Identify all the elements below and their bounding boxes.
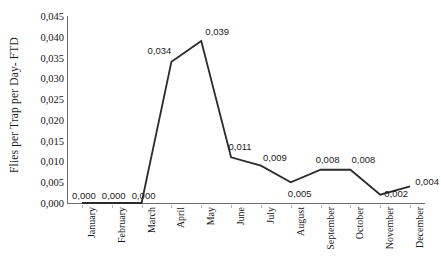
x-axis-tick-label: September [325, 207, 336, 250]
y-axis-tick-label: 0,005 [26, 177, 64, 188]
line-chart: Flies per Trap per Day- FTD 0,0000,0050,… [0, 0, 441, 264]
data-point-label: 0,000 [102, 190, 126, 201]
y-axis-tick-label: 0,010 [26, 156, 64, 167]
x-axis-tick-label: March [146, 207, 157, 233]
x-axis-tick-labels: JanuaryFebruaryMarchAprilMayJuneJulyAugu… [67, 205, 425, 264]
data-point-label: 0,000 [132, 190, 156, 201]
x-axis-tick-label: April [175, 207, 186, 228]
data-point-label: 0,004 [415, 176, 439, 187]
x-axis-tick-label: December [414, 207, 425, 248]
x-axis-tick-mark [321, 205, 322, 208]
y-axis-tick-label: 0,035 [26, 52, 64, 63]
x-axis-tick-mark [350, 205, 351, 208]
y-axis-tick-labels: 0,0000,0050,0100,0150,0200,0250,0300,035… [24, 0, 64, 264]
x-axis-tick-label: May [205, 207, 216, 225]
plot-area: 0,0000,0000,0000,0340,0390,0110,0090,005… [67, 16, 425, 203]
data-point-label: 0,011 [229, 141, 252, 152]
x-axis-tick-label: January [86, 207, 97, 238]
x-axis-tick-mark [142, 205, 143, 208]
y-axis-tick-label: 0,040 [26, 31, 64, 42]
data-point-label: 0,005 [288, 188, 312, 199]
x-axis-tick-mark [112, 205, 113, 208]
x-axis-tick-mark [82, 205, 83, 208]
x-axis-tick-label: June [235, 207, 246, 225]
data-point-label: 0,039 [205, 25, 229, 36]
y-axis-tick-label: 0,045 [26, 11, 64, 22]
y-axis-tick-label: 0,025 [26, 94, 64, 105]
x-axis-tick-mark [261, 205, 262, 208]
series-line-ftd [67, 16, 425, 203]
x-axis-tick-mark [171, 205, 172, 208]
x-axis-tick-mark [410, 205, 411, 208]
x-axis-tick-label: October [354, 207, 365, 239]
x-axis-tick-label: July [265, 207, 276, 224]
x-axis-tick-mark [201, 205, 202, 208]
y-axis-tick-label: 0,030 [26, 73, 64, 84]
data-point-label: 0,008 [352, 153, 376, 164]
data-point-label: 0,000 [72, 190, 96, 201]
y-axis-title-text: Flies per Trap per Day- FTD [8, 37, 20, 173]
data-point-label: 0,009 [263, 151, 287, 162]
data-point-label: 0,002 [384, 187, 408, 198]
x-axis-tick-mark [380, 205, 381, 208]
data-point-label: 0,034 [148, 44, 172, 55]
data-point-label: 0,008 [316, 153, 340, 164]
x-axis-tick-label: November [384, 207, 395, 249]
x-axis-tick-mark [231, 205, 232, 208]
y-axis-tick-label: 0,020 [26, 114, 64, 125]
y-axis-tick-label: 0,000 [26, 198, 64, 209]
x-axis-tick-label: February [116, 207, 127, 243]
y-axis-tick-label: 0,015 [26, 135, 64, 146]
x-axis-tick-mark [291, 205, 292, 208]
x-axis-tick-label: August [295, 207, 306, 236]
